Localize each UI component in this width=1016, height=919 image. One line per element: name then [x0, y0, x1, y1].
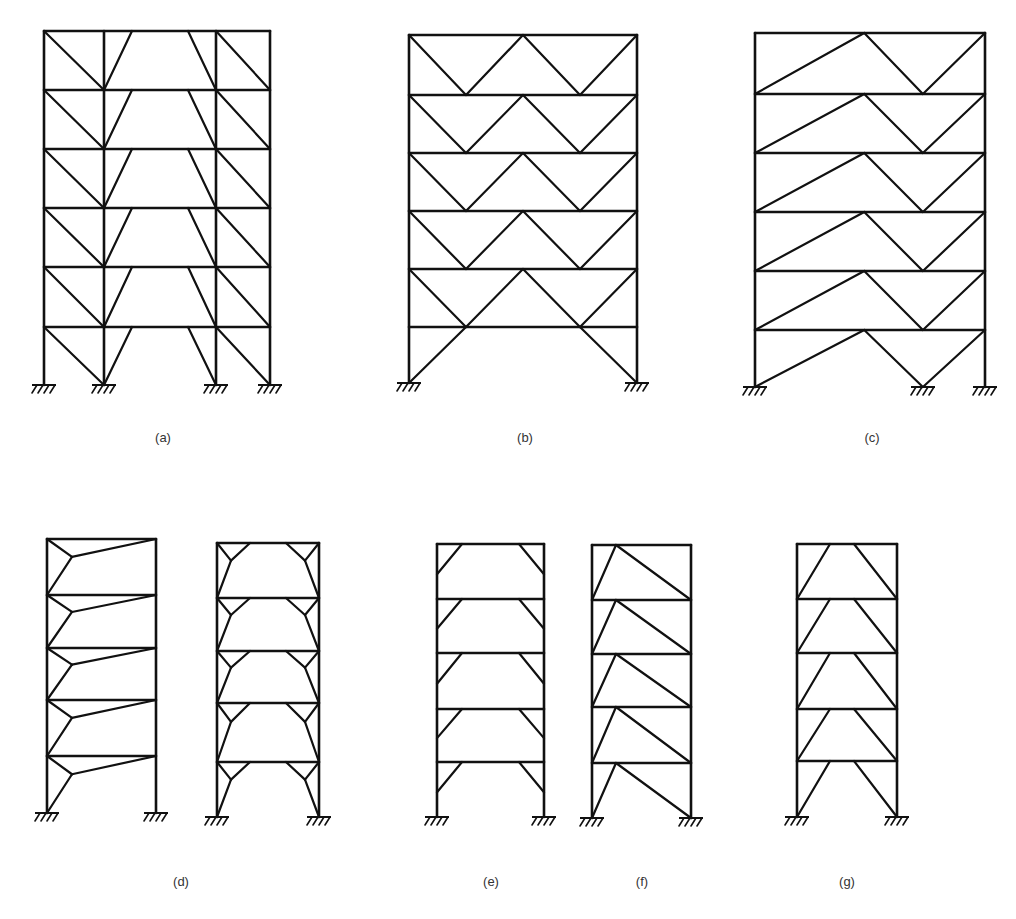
diagonal-brace [616, 600, 691, 654]
label-e: (e) [483, 874, 499, 889]
ground-hatch [258, 385, 263, 393]
knee-brace [104, 149, 132, 208]
diagonal-brace [580, 327, 637, 383]
ground-hatch [761, 387, 766, 395]
knee-brace [519, 599, 544, 629]
ground-hatch [743, 387, 748, 395]
ground-hatch [144, 813, 149, 821]
y-brace [305, 722, 319, 762]
diagonal-brace [216, 31, 270, 90]
ground-hatch [437, 817, 442, 825]
split-k-brace [854, 761, 897, 817]
ground-hatch [425, 817, 430, 825]
y-brace [305, 703, 319, 722]
ground-hatch [210, 385, 215, 393]
y-brace [305, 780, 319, 817]
knee-brace [188, 267, 216, 327]
ground-hatch [929, 387, 934, 395]
ground-hatch [903, 817, 908, 825]
y-brace [217, 703, 231, 722]
split-k-brace [797, 653, 830, 709]
ground-hatch [53, 813, 58, 821]
chevron-brace [523, 95, 580, 153]
frame-c [743, 33, 997, 395]
ground-hatch [211, 817, 216, 825]
knee-brace [104, 90, 132, 149]
chevron-brace [864, 271, 923, 330]
long-diagonal [755, 94, 864, 153]
link-brace [592, 763, 616, 818]
chevron-brace [523, 35, 580, 95]
split-k-brace [854, 544, 897, 599]
y-brace [286, 651, 305, 668]
ground-hatch [685, 818, 690, 826]
ground-hatch [643, 383, 648, 391]
ground-hatch [313, 817, 318, 825]
split-k-brace [854, 653, 897, 709]
ground-hatch [625, 383, 630, 391]
ground-hatch [44, 385, 49, 393]
split-k-brace [854, 599, 897, 653]
knee-brace [519, 762, 544, 792]
chevron-brace [923, 94, 985, 153]
ground-hatch [204, 385, 209, 393]
ground-hatch [803, 817, 808, 825]
y-brace [47, 665, 72, 700]
chevron-brace [466, 95, 523, 153]
frame-g [785, 544, 909, 825]
chevron-brace [864, 153, 923, 212]
long-diagonal [755, 153, 864, 212]
y-brace [305, 615, 319, 651]
ground-hatch [205, 817, 210, 825]
label-a: (a) [155, 430, 171, 445]
ground-hatch [785, 817, 790, 825]
chevron-brace [409, 95, 466, 153]
chevron-brace [409, 35, 466, 95]
chevron-brace [466, 153, 523, 211]
chevron-brace [864, 94, 923, 153]
ground-hatch [691, 818, 696, 826]
split-k-brace [797, 599, 830, 653]
knee-brace [188, 31, 216, 90]
fixed-support-icon [911, 387, 935, 395]
knee-brace [519, 653, 544, 684]
ground-hatch [319, 817, 324, 825]
ground-hatch [973, 387, 978, 395]
y-brace [217, 615, 231, 651]
ground-hatch [985, 387, 990, 395]
ground-hatch [637, 383, 642, 391]
ground-hatch [276, 385, 281, 393]
ground-hatch [598, 818, 603, 826]
ground-hatch [92, 385, 97, 393]
y-brace [286, 703, 305, 722]
ground-hatch [586, 818, 591, 826]
diagonal-brace [44, 31, 104, 90]
y-brace [47, 612, 72, 648]
ground-hatch [544, 817, 549, 825]
y-brace [217, 668, 231, 703]
ground-hatch [150, 813, 155, 821]
ground-hatch [749, 387, 754, 395]
ground-hatch [162, 813, 167, 821]
knee-brace [519, 544, 544, 574]
link-brace [72, 539, 156, 557]
knee-brace [188, 327, 216, 385]
ground-hatch [580, 818, 585, 826]
chevron-brace [864, 212, 923, 271]
y-brace [231, 762, 250, 780]
diagonal-brace [44, 90, 104, 149]
label-d: (d) [173, 874, 189, 889]
chevron-brace [923, 330, 985, 387]
diagonal-brace [616, 707, 691, 763]
link-brace [72, 595, 156, 612]
y-brace [47, 539, 72, 557]
link-brace [72, 756, 156, 774]
knee-brace [104, 31, 132, 90]
diagonal-brace [44, 208, 104, 267]
diagonal-brace [44, 267, 104, 327]
knee-brace [437, 709, 462, 738]
label-b: (b) [517, 430, 533, 445]
link-brace [72, 648, 156, 665]
ground-hatch [223, 817, 228, 825]
chevron-brace [523, 269, 580, 327]
